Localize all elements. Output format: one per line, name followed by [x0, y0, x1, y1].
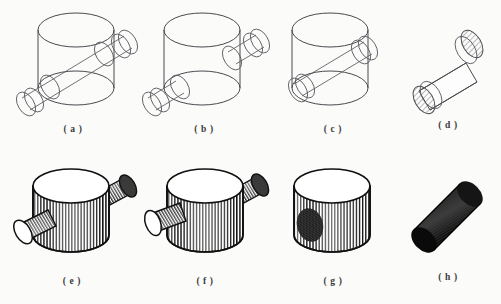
figure-plate: ( a ): [0, 0, 501, 304]
panel-a: [8, 6, 138, 124]
panel-g: [272, 156, 394, 272]
panel-d: [398, 22, 498, 122]
panel-f-caption: ( f ): [140, 276, 270, 286]
panel-d-caption: ( d ): [398, 120, 498, 130]
panel-c-caption: ( c ): [272, 124, 394, 134]
panel-a-caption: ( a ): [8, 124, 138, 134]
panel-e: [6, 156, 138, 272]
panel-b-caption: ( b ): [140, 124, 268, 134]
panel-g-caption: ( g ): [272, 276, 394, 286]
panel-e-caption: ( e ): [6, 276, 138, 286]
panel-h: [398, 172, 498, 264]
panel-f: [140, 156, 270, 272]
panel-c: [272, 6, 394, 124]
panel-b: [140, 6, 268, 124]
panel-h-caption: ( h ): [398, 272, 498, 282]
